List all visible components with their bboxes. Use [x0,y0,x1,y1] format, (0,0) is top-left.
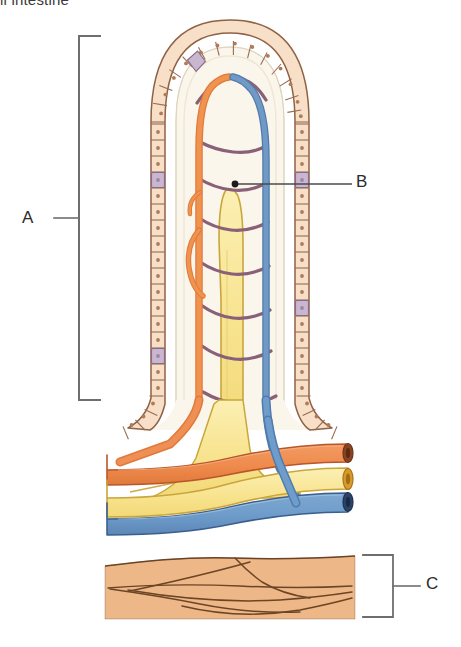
label-a: A [22,209,33,226]
bracket-a [54,36,100,400]
muscle-layer [105,556,355,619]
figure-canvas: ll intestine [0,0,461,647]
villus-diagram-svg [0,0,461,647]
label-c: C [426,575,438,592]
lacteal [219,189,243,430]
label-b: B [356,173,367,190]
bracket-c [363,555,420,617]
